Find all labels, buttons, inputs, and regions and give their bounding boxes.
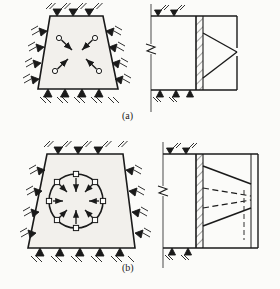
excavation-outline-b bbox=[28, 154, 135, 248]
ground-anchors-bottom-a bbox=[40, 89, 119, 103]
retaining-wall-b bbox=[196, 154, 203, 248]
panel-b-plan bbox=[20, 141, 151, 262]
section-supports-top-a bbox=[155, 5, 186, 16]
panel-b-section bbox=[158, 142, 258, 268]
pressure-diagram-a bbox=[203, 33, 237, 78]
pressure-frame-b bbox=[196, 154, 258, 248]
panel-a-section bbox=[146, 4, 237, 112]
ground-anchors-top-b bbox=[44, 141, 128, 154]
section-supports-bottom-b bbox=[165, 248, 192, 260]
figure-canvas bbox=[0, 0, 280, 289]
panel-a-plan bbox=[23, 3, 131, 103]
centerline-a bbox=[146, 4, 156, 112]
engineering-figure: (a) (b) bbox=[0, 0, 280, 289]
retaining-wall-a bbox=[196, 16, 203, 90]
section-supports-top-b bbox=[167, 143, 198, 154]
excavation-outline-a bbox=[38, 16, 118, 89]
caption-b: (b) bbox=[122, 262, 134, 273]
centerline-b bbox=[158, 142, 168, 268]
caption-a: (a) bbox=[122, 110, 133, 121]
section-supports-bottom-a bbox=[153, 90, 194, 102]
ground-anchors-bottom-b bbox=[31, 248, 134, 262]
ground-anchors-top-a bbox=[46, 3, 103, 16]
